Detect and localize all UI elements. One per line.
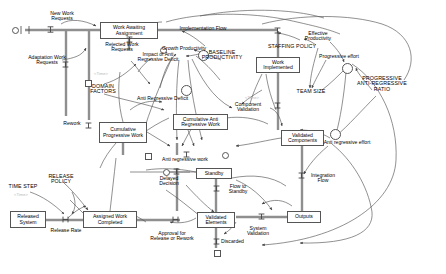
label-rejected-work-requests: Rejected Work Requests <box>96 42 148 52</box>
label-impact-of-anti-regressive-deficit: Impact of Anti Regressive Deficit <box>130 52 186 62</box>
constant-domain-factors: DOMAIN FACTORS <box>83 84 123 95</box>
valve-discarded[interactable] <box>213 238 220 245</box>
constant-release-policy: RELEASE POLICY <box>42 174 80 185</box>
aux-progressive-effort[interactable] <box>342 63 353 74</box>
label-approval-for-release-or-rework: Approval for Release or Rework <box>136 231 208 241</box>
stock-label: Validated Elements <box>199 215 233 225</box>
stock-label: Outputs <box>295 214 313 219</box>
constant-progressive-anti-regressive-ratio: PROGRESSIVE ANTI-REGRESSIVE RATIO <box>347 76 417 92</box>
stock-label: Cumulative Anti Regressive Work <box>175 117 226 127</box>
label-adaptation-work-requests: Adaptation Work Requests <box>14 55 80 65</box>
label-flow-to-standby: Flow to Standby <box>221 184 255 194</box>
ghost-time-1: <Time> <box>88 72 114 76</box>
stock-label: Cumulative Progressive Work <box>101 127 145 137</box>
constant-team-size: TEAM SIZE <box>288 89 334 94</box>
valve-flow-to-standby[interactable] <box>213 185 220 192</box>
label-anti-regressive-deficit: Anti Regressive Deficit <box>137 96 213 101</box>
ghost-time-3: <Time> <box>8 193 34 197</box>
label-system-validation: System Validation <box>238 226 278 236</box>
label-release-rate: Release Rate <box>40 228 92 233</box>
constant-baseline-productivity: BASELINE PRODUCTIVITY <box>191 50 253 61</box>
stock-cumulative-progressive-work[interactable]: Cumulative Progressive Work <box>99 122 147 143</box>
label-progressive-effort: Progressive effort <box>308 54 370 59</box>
valve-delayed-decision[interactable] <box>173 168 180 175</box>
ghost-time-2: <Time> <box>239 96 265 100</box>
stock-validated-elements[interactable]: Validated Elements <box>197 212 235 228</box>
stock-assigned-work-completed[interactable]: Assigned Work Completed <box>83 211 137 228</box>
valve-component-validation[interactable] <box>274 102 281 109</box>
label-new-work-requests: New Work Requests <box>39 11 85 21</box>
constant-time-step: TIME STEP <box>1 184 45 189</box>
stock-label: Standby <box>205 171 224 176</box>
valve-approval-release-rework[interactable] <box>172 216 179 223</box>
label-component-validation: Component Validation <box>224 102 272 112</box>
stock-flow-diagram: Work Awaiting Assignment Cumulative Prog… <box>0 0 446 274</box>
stock-work-implemented[interactable]: Work Implemented <box>256 57 300 73</box>
valve-implementation-flow[interactable] <box>274 27 281 34</box>
port-discarded <box>214 250 221 257</box>
constant-staffing-policy: STAFFING POLICY <box>256 44 328 49</box>
stock-released-system[interactable]: Released System <box>10 211 46 228</box>
stock-label: Work Implemented <box>258 60 298 70</box>
label-anti-regressive-work: Anti regressive work <box>150 157 220 162</box>
stock-cumulative-anti-regressive-work[interactable]: Cumulative Anti Regressive Work <box>173 114 228 130</box>
label-integration-flow: Integration Flow <box>303 173 343 183</box>
valve-new-work-requests[interactable] <box>47 26 54 33</box>
valve-release-rate[interactable] <box>62 216 69 223</box>
stock-label: Assigned Work Completed <box>85 214 135 224</box>
valve-system-validation[interactable] <box>258 213 265 220</box>
label-delayed-decision: Delayed Decision <box>151 176 187 186</box>
label-effective-productivity: Effective Productivity <box>297 31 339 41</box>
stock-label: Work Awaiting Assignment <box>102 25 156 35</box>
label-anti-regressive-effort: Anti regressive effort <box>313 140 381 145</box>
label-rework: Rework <box>57 121 87 126</box>
label-discarded: Discarded <box>221 239 255 244</box>
stock-label: Released System <box>12 214 44 224</box>
stock-standby[interactable]: Standby <box>196 168 232 179</box>
stock-outputs[interactable]: Outputs <box>287 211 321 223</box>
label-implementation-flow: Implementation Flow <box>166 26 240 31</box>
